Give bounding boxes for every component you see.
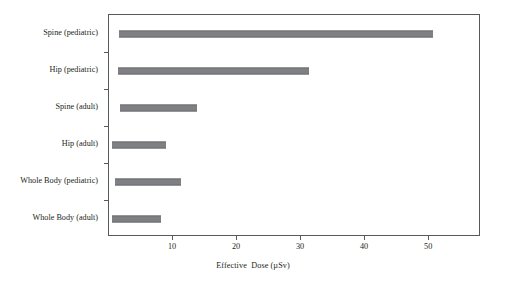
range-bar <box>119 30 433 37</box>
y-axis-tick <box>104 126 109 127</box>
y-axis-label-spine-pediatric: Spine (pediatric) <box>0 28 103 38</box>
x-axis-tick-label: 40 <box>360 242 368 252</box>
bar-row <box>109 89 479 126</box>
bar-row <box>109 52 479 89</box>
y-axis-label-hip-pediatric: Hip (pediatric) <box>0 65 103 75</box>
y-axis-label-hip-adult: Hip (adult) <box>0 139 103 149</box>
y-axis-tick <box>104 89 109 90</box>
bar-row <box>109 15 479 52</box>
x-axis-tick <box>428 236 429 240</box>
bar-row <box>109 200 479 237</box>
range-bar <box>112 215 161 222</box>
x-axis-tick-label: 30 <box>296 242 304 252</box>
range-bar <box>120 104 197 111</box>
x-axis-tick-label: 50 <box>424 242 432 252</box>
y-axis-label-whole-body-pediatric: Whole Body (pediatric) <box>0 176 103 186</box>
x-axis-title: Effective Dose (µSv) <box>0 260 506 271</box>
y-axis-label-spine-adult: Spine (adult) <box>0 102 103 112</box>
chart-figure: Spine (pediatric)Hip (pediatric)Spine (a… <box>0 0 506 285</box>
x-axis-tick <box>300 236 301 240</box>
bar-row <box>109 163 479 200</box>
y-axis-label-whole-body-adult: Whole Body (adult) <box>0 213 103 223</box>
range-bar <box>115 178 182 185</box>
range-bar <box>112 141 166 148</box>
x-axis-tick-label: 20 <box>232 242 240 252</box>
y-axis-tick <box>104 52 109 53</box>
x-axis-tick <box>236 236 237 240</box>
y-axis-tick-labels: Spine (pediatric)Hip (pediatric)Spine (a… <box>0 14 103 236</box>
y-axis-tick <box>104 163 109 164</box>
x-axis-tick-label: 10 <box>168 242 176 252</box>
x-axis-title-text: Effective Dose (µSv) <box>216 261 290 270</box>
bar-row <box>109 126 479 163</box>
range-bar <box>118 67 309 74</box>
x-axis-tick <box>364 236 365 240</box>
plot-area <box>108 14 480 236</box>
x-axis-tick <box>172 236 173 240</box>
y-axis-tick <box>104 200 109 201</box>
